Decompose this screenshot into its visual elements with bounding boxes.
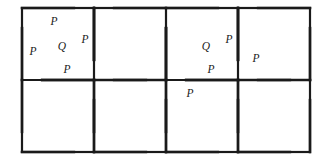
tile-label-p-10: P — [185, 87, 193, 99]
tile-label-p-5: P — [62, 63, 70, 75]
tile-label-q-3: Q — [58, 40, 67, 52]
tile-label-p-4: P — [80, 33, 88, 45]
tile-label-p-1: P — [49, 15, 57, 27]
tile-label-p-8: P — [206, 63, 214, 75]
tile-label-p-7: P — [224, 33, 232, 45]
figure-root: PPPPQQPPPPQQPPPPPPPP — [0, 0, 332, 159]
tiling-diagram: PPPPQQPPPPQQPPPPPPPP — [0, 0, 332, 159]
tile-label-p-9: P — [251, 52, 259, 64]
tile-label-p-2: P — [28, 45, 36, 57]
tile-label-q-6: Q — [202, 40, 211, 52]
